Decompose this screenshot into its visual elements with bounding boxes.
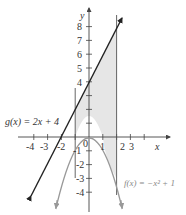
y-tick-label: 7 (77, 35, 82, 46)
y-tick-label: 6 (77, 49, 82, 60)
x-tick-label: -2 (57, 141, 65, 152)
x-tick-label: 0 (83, 138, 88, 149)
x-tick-label: -1 (73, 145, 81, 156)
curve-f-arrow-right (121, 200, 122, 208)
y-tick-label: 5 (77, 63, 82, 74)
x-tick-label: 1 (100, 141, 105, 152)
x-tick-label: 3 (129, 141, 134, 152)
curve-f-arrow-left (56, 200, 57, 208)
area-between-curves-diagram: y x 8 7 6 5 4 -2 -3 -4 -4 -3 -2 -1 0 1 2… (0, 0, 186, 215)
x-axis-label: x (154, 141, 160, 152)
y-tick-label: 8 (77, 21, 82, 32)
x-tick-label: -4 (26, 141, 34, 152)
curve-f-label: f(x) = −x² + 1 (124, 178, 175, 188)
x-tick-label: 2 (120, 141, 125, 152)
y-axis-label: y (79, 10, 85, 21)
curve-g-label: g(x) = 2x + 4 (5, 116, 59, 128)
y-tick-label: -2 (76, 159, 84, 170)
y-tick-label: -4 (76, 187, 84, 198)
x-tick-label: -3 (40, 141, 48, 152)
y-tick-label: 4 (77, 77, 82, 88)
y-tick-label: -3 (76, 173, 84, 184)
